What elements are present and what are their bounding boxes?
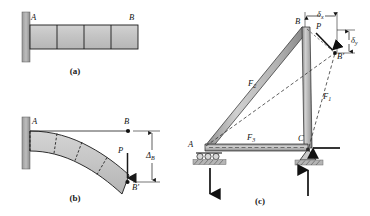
delta-b-subscript: B [151,155,155,161]
label-point-bprime-panel-c: B′ [337,52,344,61]
label-point-b-panel-a: B [129,13,134,22]
deflected-beam-body [30,131,129,194]
f2-subscript: 2 [253,83,256,89]
load-p-arrow-c[interactable] [316,33,333,50]
truss-member-vertical-bc [302,27,312,148]
caption-panel-b: (b) [60,193,90,203]
truss-member-diagonal-ab [205,27,309,149]
wall-support-a [22,12,30,62]
label-point-b-panel-b: B [124,117,129,126]
point-b-marker [126,129,130,133]
label-force-f2: F2 [248,79,256,88]
pin-hinge-c [306,148,310,152]
label-force-f1: F1 [323,92,331,101]
f1-subscript: 1 [328,96,331,102]
label-point-bprime-panel-b: B′ [132,183,139,192]
engineering-figure: A B (a) [0,0,370,216]
delta-x-subscript: x [321,14,324,20]
delta-y-subscript: y [355,40,358,46]
panel-a-undeformed-beam: A B (a) [0,0,185,95]
roller-wheel-a-3 [213,153,219,159]
label-point-a-panel-c: A [188,140,193,149]
panel-c-truss: A B C B′ P F1 F2 F3 δx δy (c) [185,0,370,216]
ground-base-c [295,160,323,165]
label-load-p-panel-c: P [316,22,321,31]
roller-wheel-a-2 [205,153,211,159]
wall-support-b [22,117,30,169]
panel-a-drawing [0,0,185,95]
panel-b-deflected-beam: A B B′ P ΔB (b) [0,95,185,216]
dashed-line-b-bprime [307,29,335,53]
caption-panel-a: (a) [60,66,90,76]
panel-c-drawing [185,0,370,216]
label-load-p-panel-b: P [118,146,123,155]
label-delta-x: δx [317,10,324,19]
label-point-c-panel-c: C [298,134,304,143]
caption-panel-c: (c) [245,196,275,206]
panel-b-drawing [0,95,185,216]
label-point-b-panel-c: B [295,17,300,26]
label-point-a-panel-a: A [31,13,36,22]
label-force-f3: F3 [247,133,255,142]
f3-subscript: 3 [252,137,255,143]
label-delta-y: δy [351,36,358,45]
point-bprime-marker [125,180,129,184]
label-point-a-panel-b: A [32,117,37,126]
label-delta-b: ΔB [146,151,155,160]
roller-wheel-a-1 [197,153,203,159]
